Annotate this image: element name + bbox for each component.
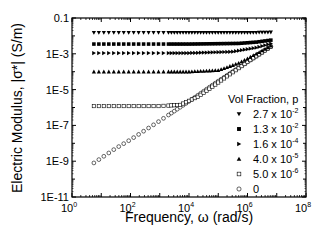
legend: Vol Fraction, p2.7 x 10-21.3 x 10-21.6 x…: [228, 93, 298, 195]
legend-item: 4.0 x 10-5: [237, 152, 299, 165]
chart: 0.11E-31E-51E-71E-91E-11 100102104106108…: [0, 0, 325, 247]
legend-item: 1.6 x 10-4: [237, 137, 298, 150]
x-axis-title: Frequency, ω (rad/s): [125, 209, 253, 225]
x-tick-label: 108: [295, 201, 311, 214]
legend-label: 0: [253, 183, 259, 195]
legend-label: 1.3 x 10-2: [253, 122, 298, 135]
legend-item: 0: [237, 183, 259, 195]
y-tick-label: 1E-7: [46, 119, 69, 131]
y-tick-label: 0.1: [54, 12, 69, 24]
legend-item: 5.0 x 10-6: [237, 167, 298, 180]
legend-item: 2.7 x 10-2: [237, 107, 299, 120]
legend-label: 5.0 x 10-6: [253, 167, 298, 180]
y-tick-label: 1E-5: [46, 84, 69, 96]
legend-title: Vol Fraction, p: [228, 93, 298, 105]
data-series: [92, 38, 273, 45]
legend-label: 1.6 x 10-4: [253, 137, 298, 150]
y-tick-labels: 0.11E-31E-51E-71E-91E-11: [40, 12, 69, 203]
legend-label: 2.7 x 10-2: [253, 107, 298, 120]
legend-item: 1.3 x 10-2: [237, 122, 298, 135]
y-tick-label: 1E-9: [46, 155, 69, 167]
legend-label: 4.0 x 10-5: [253, 152, 298, 165]
y-tick-label: 1E-3: [46, 48, 69, 60]
y-axis-title: Electric Modulus, |σ*| (S/m): [9, 23, 25, 193]
data-series: [92, 31, 273, 35]
x-tick-label: 100: [61, 201, 77, 214]
